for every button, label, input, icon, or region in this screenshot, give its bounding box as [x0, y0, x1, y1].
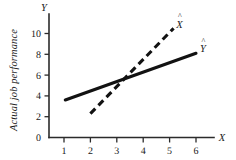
series-line-x-hat — [90, 28, 173, 113]
y-tick-label-2: 2 — [36, 112, 41, 123]
y-hat-base: Y — [200, 43, 207, 54]
y-axis-name: Y — [41, 2, 48, 13]
y-tick-label-8: 8 — [36, 50, 41, 61]
x-axis-tick-labels: 1 2 3 4 5 6 — [62, 146, 199, 157]
y-axis-tick-labels: 10 8 6 4 2 0 — [31, 29, 41, 144]
x-axis-name: X — [218, 132, 226, 143]
x-tick-label-4: 4 — [141, 146, 146, 157]
x-tick-label-3: 3 — [114, 146, 119, 157]
x-tick-label-6: 6 — [194, 146, 199, 157]
y-tick-label-6: 6 — [36, 71, 41, 82]
x-tick-label-1: 1 — [62, 146, 67, 157]
x-hat-base: X — [175, 19, 183, 30]
x-tick-label-2: 2 — [88, 146, 93, 157]
series-label-x-hat: ^ X — [175, 12, 183, 30]
series-label-y-hat: ^ Y — [200, 37, 207, 55]
y-tick-label-4: 4 — [36, 91, 41, 102]
y-tick-label-10: 10 — [31, 29, 41, 40]
y-tick-label-0: 0 — [36, 133, 41, 144]
series-line-y-hat — [65, 53, 196, 100]
chart-figure: 10 8 6 4 2 0 1 2 3 4 5 6 Y X — [0, 0, 236, 160]
x-tick-label-5: 5 — [167, 146, 172, 157]
chart-plot-area: 10 8 6 4 2 0 1 2 3 4 5 6 Y X — [0, 0, 236, 160]
